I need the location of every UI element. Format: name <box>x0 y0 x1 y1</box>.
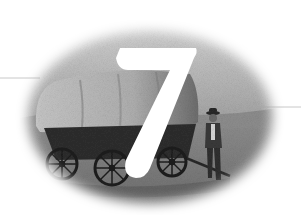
chapter-opener-illustration: 7 <box>0 0 301 215</box>
hat-crown <box>209 108 217 113</box>
shirt <box>211 124 215 140</box>
head <box>209 114 217 122</box>
chapter-number: 7 <box>109 39 206 203</box>
wheel-rear <box>47 149 77 179</box>
